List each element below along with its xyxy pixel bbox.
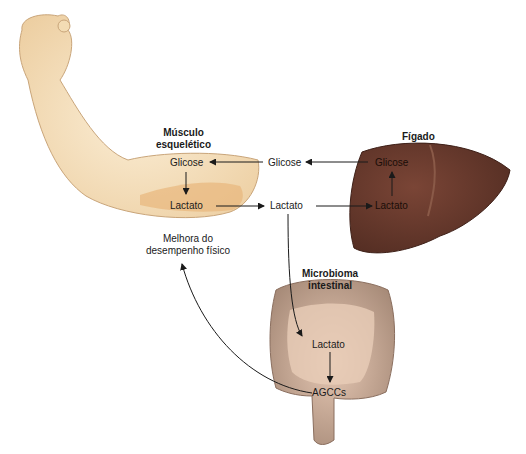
blood-glucose-label: Glicose [268,157,301,169]
outcome-line1: Melhora do [146,233,230,245]
outcome-line2: desempenho físico [146,245,230,257]
muscle-title-line1: Músculo [156,127,211,139]
microbiome-title: Microbioma intestinal [302,268,358,292]
arm-illustration [20,15,259,218]
liver-title: Fígado [402,131,435,143]
liver-illustration [350,143,510,253]
diagram-artwork [0,0,526,454]
muscle-glucose-label: Glicose [170,157,203,169]
gut-scfa-label: AGCCs [312,387,346,399]
liver-glucose-label: Glicose [375,157,408,169]
gut-lactate-label: Lactato [312,339,345,351]
muscle-title: Músculo esquelético [156,127,211,151]
blood-lactate-label: Lactato [270,200,303,212]
microbiome-title-line1: Microbioma [302,268,358,280]
intestine-illustration [270,280,395,445]
microbiome-title-line2: intestinal [302,280,358,292]
muscle-lactate-label: Lactato [170,200,203,212]
muscle-title-line2: esquelético [156,139,211,151]
performance-outcome: Melhora do desempenho físico [146,233,230,257]
liver-lactate-label: Lactato [375,200,408,212]
